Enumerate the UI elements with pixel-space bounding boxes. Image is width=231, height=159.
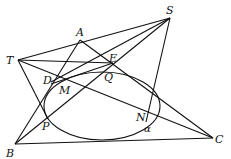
geometry-diagram: S T A E D M Q P N B C α xyxy=(0,0,231,159)
label-D: D xyxy=(42,74,52,87)
label-E: E xyxy=(108,52,117,65)
line-SN xyxy=(146,18,170,122)
line-TE xyxy=(18,18,170,60)
label-Q: Q xyxy=(104,71,113,84)
label-B: B xyxy=(5,147,14,159)
diagram-canvas: S T A E D M Q P N B C α xyxy=(0,0,231,159)
line-TP xyxy=(18,60,48,119)
label-A: A xyxy=(75,26,84,39)
label-alpha: α xyxy=(144,123,151,134)
label-C: C xyxy=(215,133,224,146)
label-P: P xyxy=(41,120,50,133)
line-TB xyxy=(15,60,18,144)
label-T: T xyxy=(6,54,15,67)
label-M: M xyxy=(58,84,71,97)
label-group: S T A E D M Q P N B C α xyxy=(5,4,224,159)
label-S: S xyxy=(166,4,174,17)
